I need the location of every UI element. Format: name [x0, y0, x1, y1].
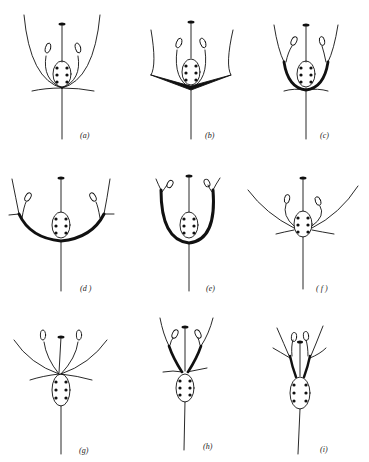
- petal-right: [312, 186, 358, 228]
- hypanthium-saucer: [19, 214, 104, 241]
- sepal-right: [61, 374, 92, 380]
- ovary-icon: [53, 61, 71, 87]
- ovules-icon: [55, 66, 68, 83]
- flower-diagram-i: [246, 308, 369, 462]
- flower-diagram-g: [0, 308, 123, 462]
- stamen-right: [96, 202, 100, 218]
- flower-diagram-e: [123, 154, 246, 308]
- stamen-right: [306, 340, 308, 356]
- flower-diagram-d: [0, 154, 123, 308]
- floral-tube-left: [169, 346, 182, 372]
- sepal-left: [276, 230, 294, 234]
- anther-right-icon: [199, 37, 207, 48]
- ovary-icon: [297, 61, 315, 87]
- pedicel-line: [184, 402, 185, 450]
- anther-right-icon: [319, 36, 326, 46]
- petal-left: [274, 25, 284, 62]
- flower-diagram-h: [123, 308, 246, 462]
- petal-left: [151, 30, 154, 75]
- stamen-left: [286, 46, 292, 62]
- stamen-left: [45, 56, 62, 88]
- panel-f: ( f ): [246, 154, 369, 308]
- stamen-left: [170, 338, 173, 345]
- style-line: [59, 337, 61, 373]
- panel-label-d: (d ): [80, 284, 91, 293]
- sepal-left: [32, 88, 62, 91]
- stamen-left: [285, 204, 294, 226]
- panel-a: (a): [0, 0, 123, 154]
- ovules-icon: [182, 217, 195, 234]
- floral-tube-right: [304, 356, 310, 377]
- pedicel-line: [298, 409, 300, 454]
- ovules-icon: [184, 64, 197, 81]
- petal-right: [310, 326, 323, 358]
- stamen-left: [44, 342, 59, 374]
- panel-label-g: (g): [79, 446, 88, 455]
- ovary-icon: [52, 212, 70, 238]
- stamen-left: [22, 202, 26, 218]
- sepal-right: [62, 88, 94, 91]
- flower-diagram-b: [123, 0, 246, 154]
- anther-right-icon: [74, 42, 82, 53]
- petal-right: [328, 25, 338, 62]
- panel-b: (b): [123, 0, 246, 154]
- petal-left: [12, 179, 19, 214]
- flower-diagram-a: [0, 0, 123, 154]
- petal-left: [160, 318, 169, 346]
- anther-left-icon: [284, 194, 291, 204]
- petal-right: [201, 318, 213, 346]
- anther-right-icon: [203, 178, 211, 187]
- panel-label-a: (a): [80, 131, 89, 140]
- anther-right-icon: [88, 192, 97, 202]
- panel-g: (g): [0, 308, 123, 462]
- anther-left-icon: [290, 36, 299, 46]
- stamen-left: [162, 185, 167, 192]
- flower-diagram-f: [246, 154, 369, 308]
- petal-right: [228, 30, 233, 75]
- floral-tube-right: [188, 346, 201, 372]
- sepal-right: [312, 230, 334, 234]
- panel-e: (e): [123, 154, 246, 308]
- ovules-icon: [299, 66, 312, 83]
- petal-left: [24, 15, 62, 88]
- ovary-icon: [180, 212, 198, 238]
- panel-d: (d ): [0, 154, 123, 308]
- anther-right-icon: [76, 330, 81, 340]
- panel-label-i: (i): [320, 445, 328, 454]
- anther-left-icon: [23, 192, 32, 202]
- panel-label-b: (b): [205, 131, 214, 140]
- ovary-icon: [294, 211, 312, 237]
- anther-left-icon: [44, 42, 52, 53]
- petal-right: [104, 179, 110, 214]
- anther-right-icon: [194, 329, 203, 339]
- sepal-left: [9, 214, 19, 215]
- anther-left-icon: [40, 330, 45, 340]
- petal-right: [213, 178, 220, 190]
- panel-label-c: (c): [320, 131, 329, 140]
- floral-tube-left: [290, 356, 296, 377]
- anther-left-icon: [175, 37, 183, 48]
- ovules-icon: [292, 383, 307, 402]
- ovules-icon: [54, 380, 67, 399]
- panel-label-e: (e): [206, 284, 215, 293]
- panel-label-f: ( f ): [316, 284, 328, 293]
- panel-h: (h): [123, 308, 246, 462]
- stamen-right: [322, 46, 326, 62]
- petal-right: [61, 340, 107, 374]
- stamen-right: [62, 56, 79, 88]
- stamen-right: [198, 338, 200, 345]
- petal-left: [156, 179, 161, 190]
- petal-left: [277, 328, 290, 358]
- ovules-icon: [54, 217, 67, 234]
- petal-left: [14, 340, 59, 374]
- anther-left-icon: [291, 332, 297, 341]
- anther-left-icon: [171, 329, 180, 339]
- stamen-right: [61, 342, 78, 374]
- ovules-icon: [296, 216, 309, 233]
- hypanthium-deep-cup: [161, 190, 214, 243]
- petal-left: [248, 190, 294, 228]
- anther-left-icon: [166, 179, 175, 189]
- ovules-icon: [178, 379, 191, 396]
- anther-right-icon: [314, 196, 322, 206]
- panel-c: (c): [246, 0, 369, 154]
